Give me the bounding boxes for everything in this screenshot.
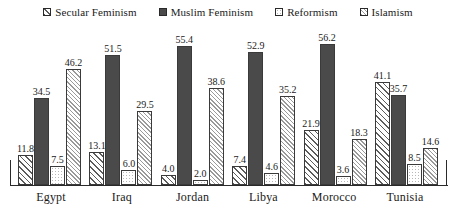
- bar-slot-libya-muslim-feminism: 52.9: [248, 22, 263, 185]
- bar-group-iraq: 13.151.56.029.5: [89, 22, 152, 185]
- bar-value-egypt-muslim-feminism: 34.5: [33, 87, 51, 97]
- bar-iraq-reformism[interactable]: [121, 170, 136, 185]
- bar-slot-libya-islamism: 35.2: [280, 22, 295, 185]
- legend-item-islamism: Islamism: [360, 7, 413, 18]
- bar-slot-morocco-muslim-feminism: 56.2: [320, 22, 335, 185]
- bar-egypt-secular-feminism[interactable]: [18, 155, 33, 185]
- bar-value-egypt-reformism: 7.5: [51, 155, 64, 165]
- bar-value-jordan-islamism: 38.6: [208, 77, 226, 87]
- bar-value-iraq-muslim-feminism: 51.5: [104, 44, 122, 54]
- bar-tunisia-islamism[interactable]: [423, 148, 438, 185]
- bar-value-libya-secular-feminism: 7.4: [233, 155, 246, 165]
- axis-left-tick: [10, 160, 11, 185]
- bar-iraq-islamism[interactable]: [137, 111, 152, 185]
- bar-slot-egypt-reformism: 7.5: [50, 22, 65, 185]
- legend-swatch-reformism: [275, 8, 283, 16]
- legend-swatch-islamism: [360, 8, 368, 16]
- bar-slot-tunisia-secular-feminism: 41.1: [375, 22, 390, 185]
- grouped-bar-chart: Secular Feminism Muslim Feminism Reformi…: [0, 0, 456, 219]
- bar-group-egypt: 11.834.57.546.2: [18, 22, 81, 185]
- bar-value-iraq-islamism: 29.5: [136, 100, 154, 110]
- bar-value-egypt-islamism: 46.2: [65, 58, 83, 68]
- bar-slot-jordan-reformism: 2.0: [193, 22, 208, 185]
- category-label-morocco: Morocco: [301, 190, 367, 210]
- bar-egypt-islamism[interactable]: [66, 69, 81, 185]
- bar-slot-morocco-islamism: 18.3: [352, 22, 367, 185]
- bar-morocco-muslim-feminism[interactable]: [320, 44, 335, 185]
- legend-label-secular-feminism: Secular Feminism: [55, 7, 136, 18]
- bar-group-libya: 7.452.94.635.2: [232, 22, 295, 185]
- bar-slot-morocco-secular-feminism: 21.9: [304, 22, 319, 185]
- bar-slot-egypt-muslim-feminism: 34.5: [34, 22, 49, 185]
- bar-value-morocco-reformism: 3.6: [337, 165, 350, 175]
- axis-right-tick: [446, 160, 447, 185]
- legend-swatch-secular-feminism: [43, 8, 51, 16]
- bar-value-iraq-reformism: 6.0: [123, 159, 136, 169]
- bar-value-libya-reformism: 4.6: [265, 162, 278, 172]
- bar-value-libya-muslim-feminism: 52.9: [247, 41, 265, 51]
- legend-item-reformism: Reformism: [275, 7, 337, 18]
- bar-value-libya-islamism: 35.2: [279, 85, 297, 95]
- bar-tunisia-secular-feminism[interactable]: [375, 82, 390, 185]
- bar-value-morocco-secular-feminism: 21.9: [302, 119, 320, 129]
- bar-group-morocco: 21.956.23.618.3: [304, 22, 367, 185]
- bar-libya-muslim-feminism[interactable]: [248, 52, 263, 185]
- legend-label-islamism: Islamism: [372, 7, 413, 18]
- bar-slot-iraq-reformism: 6.0: [121, 22, 136, 185]
- bar-value-jordan-muslim-feminism: 55.4: [176, 35, 194, 45]
- bar-slot-jordan-secular-feminism: 4.0: [161, 22, 176, 185]
- bar-value-tunisia-muslim-feminism: 35.7: [390, 84, 408, 94]
- category-label-libya: Libya: [230, 190, 296, 210]
- legend-label-muslim-feminism: Muslim Feminism: [171, 7, 254, 18]
- bar-slot-iraq-islamism: 29.5: [137, 22, 152, 185]
- bar-libya-islamism[interactable]: [280, 96, 295, 185]
- bar-value-iraq-secular-feminism: 13.1: [88, 141, 106, 151]
- bar-slot-libya-secular-feminism: 7.4: [232, 22, 247, 185]
- bar-slot-tunisia-reformism: 8.5: [407, 22, 422, 185]
- bar-slot-egypt-secular-feminism: 11.8: [18, 22, 33, 185]
- legend-item-muslim-feminism: Muslim Feminism: [159, 7, 254, 18]
- bar-egypt-muslim-feminism[interactable]: [34, 98, 49, 185]
- category-label-egypt: Egypt: [18, 190, 84, 210]
- bar-jordan-islamism[interactable]: [209, 88, 224, 185]
- bar-slot-iraq-muslim-feminism: 51.5: [105, 22, 120, 185]
- bar-group-tunisia: 41.135.78.514.6: [375, 22, 438, 185]
- bar-value-egypt-secular-feminism: 11.8: [17, 144, 34, 154]
- bar-slot-iraq-secular-feminism: 13.1: [89, 22, 104, 185]
- category-label-jordan: Jordan: [160, 190, 226, 210]
- legend-label-reformism: Reformism: [287, 7, 337, 18]
- bar-morocco-secular-feminism[interactable]: [304, 130, 319, 185]
- category-label-iraq: Iraq: [89, 190, 155, 210]
- bar-slot-tunisia-muslim-feminism: 35.7: [391, 22, 406, 185]
- bar-value-tunisia-islamism: 14.6: [422, 137, 440, 147]
- bar-iraq-muslim-feminism[interactable]: [105, 55, 120, 185]
- bar-morocco-reformism[interactable]: [336, 176, 351, 185]
- bar-slot-morocco-reformism: 3.6: [336, 22, 351, 185]
- plot-area: 11.834.57.546.213.151.56.029.54.055.42.0…: [18, 22, 438, 185]
- legend-swatch-muslim-feminism: [159, 8, 167, 16]
- category-label-tunisia: Tunisia: [372, 190, 438, 210]
- bar-value-tunisia-secular-feminism: 41.1: [374, 71, 392, 81]
- bar-libya-reformism[interactable]: [264, 173, 279, 185]
- bar-slot-egypt-islamism: 46.2: [66, 22, 81, 185]
- bar-jordan-muslim-feminism[interactable]: [177, 46, 192, 185]
- bar-iraq-secular-feminism[interactable]: [89, 152, 104, 185]
- bar-egypt-reformism[interactable]: [50, 166, 65, 185]
- bar-slot-libya-reformism: 4.6: [264, 22, 279, 185]
- bar-value-jordan-reformism: 2.0: [194, 169, 207, 179]
- bar-morocco-islamism[interactable]: [352, 139, 367, 185]
- axis-baseline: [10, 185, 448, 186]
- bar-value-morocco-muslim-feminism: 56.2: [318, 33, 336, 43]
- bar-value-morocco-islamism: 18.3: [350, 128, 368, 138]
- legend-item-secular-feminism: Secular Feminism: [43, 7, 136, 18]
- bar-value-tunisia-reformism: 8.5: [408, 153, 421, 163]
- bar-group-jordan: 4.055.42.038.6: [161, 22, 224, 185]
- category-axis-labels: EgyptIraqJordanLibyaMoroccoTunisia: [18, 190, 438, 210]
- bar-tunisia-muslim-feminism[interactable]: [391, 95, 406, 185]
- bar-jordan-secular-feminism[interactable]: [161, 175, 176, 185]
- chart-legend: Secular Feminism Muslim Feminism Reformi…: [0, 4, 456, 20]
- bar-value-jordan-secular-feminism: 4.0: [162, 164, 175, 174]
- bar-libya-secular-feminism[interactable]: [232, 166, 247, 185]
- bar-tunisia-reformism[interactable]: [407, 164, 422, 185]
- bar-slot-jordan-islamism: 38.6: [209, 22, 224, 185]
